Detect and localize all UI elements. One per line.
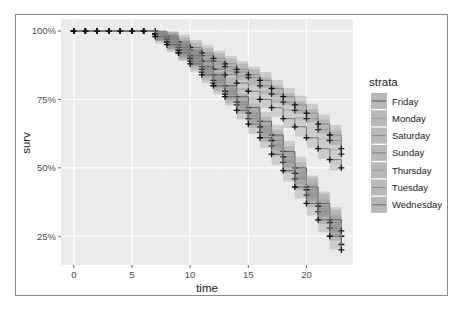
legend-label: Saturday (392, 130, 430, 141)
y-tick-label: 100% (32, 25, 57, 36)
x-tick-label: 20 (301, 269, 312, 280)
x-tick-label: 0 (71, 269, 76, 280)
legend: strata FridayMondaySaturdaySundayThursda… (369, 76, 442, 213)
x-tick-label: 15 (243, 269, 254, 280)
legend-title: strata (369, 76, 398, 88)
x-axis-title: time (196, 282, 218, 294)
legend-label: Wednesday (392, 199, 442, 210)
x-tick-label: 10 (185, 269, 196, 280)
legend-label: Sunday (392, 147, 424, 158)
legend-item-wednesday: Wednesday (371, 197, 442, 213)
legend-item-sunday: Sunday (371, 145, 424, 161)
legend-label: Tuesday (392, 182, 428, 193)
legend-label: Thursday (392, 165, 432, 176)
x-tick-label: 5 (129, 269, 134, 280)
y-tick-label: 75% (37, 94, 57, 105)
legend-label: Monday (392, 113, 426, 124)
y-tick-label: 50% (37, 162, 57, 173)
y-axis-title: surv (20, 132, 32, 154)
legend-item-thursday: Thursday (371, 162, 432, 178)
legend-item-saturday: Saturday (371, 128, 430, 144)
legend-label: Friday (392, 96, 419, 107)
plot-panel (61, 19, 353, 265)
survival-chart: 05101520100%75%50%25% time surv strata F… (0, 0, 460, 312)
legend-item-tuesday: Tuesday (371, 180, 428, 196)
legend-item-monday: Monday (371, 110, 426, 126)
legend-item-friday: Friday (371, 93, 419, 109)
y-tick-label: 25% (37, 231, 57, 242)
